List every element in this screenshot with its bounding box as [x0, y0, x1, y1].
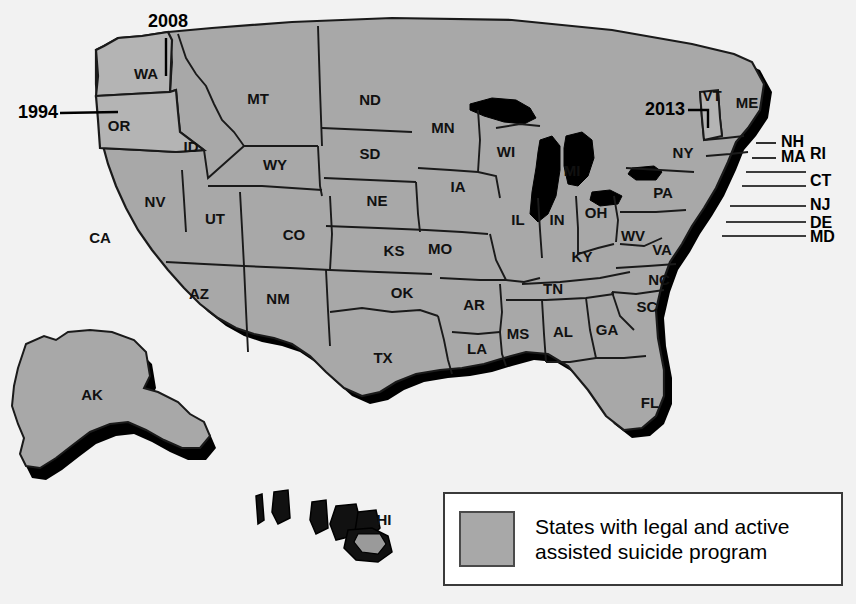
legend-line-2: assisted suicide program [535, 539, 789, 564]
state-label-ny: NY [673, 144, 694, 161]
state-label-me: ME [736, 94, 759, 111]
state-label-pa: PA [653, 184, 673, 201]
state-label-mi: MI [564, 162, 581, 179]
callout-or-1994: 1994 [18, 102, 58, 122]
state-label-wv: WV [621, 227, 645, 244]
hawaii-group [256, 490, 392, 562]
state-label-id: ID [184, 138, 199, 155]
state-label-hi: HI [377, 511, 392, 528]
state-label-fl: FL [641, 394, 659, 411]
state-label-mn: MN [431, 119, 454, 136]
legend-line-1: States with legal and active [535, 514, 789, 539]
hawaii-island-2 [272, 490, 290, 524]
legend-color-swatch [459, 511, 515, 567]
state-label-az: AZ [189, 285, 209, 302]
state-label-sd: SD [360, 145, 381, 162]
state-label-oh: OH [585, 204, 608, 221]
state-label-tn: TN [543, 280, 563, 297]
state-label-tx: TX [373, 349, 392, 366]
hawaii-island-3 [310, 500, 328, 534]
legend-description: States with legal and active assisted su… [535, 514, 789, 564]
state-label-ar: AR [463, 296, 485, 313]
state-label-mt: MT [247, 90, 269, 107]
state-label-ne: NE [367, 192, 388, 209]
state-label-ak: AK [81, 386, 103, 403]
state-label-wy: WY [263, 156, 287, 173]
state-label-la: LA [467, 340, 487, 357]
state-label-sc: SC [637, 298, 658, 315]
callout-wa-2008: 2008 [148, 11, 188, 31]
alaska-group [12, 330, 216, 480]
state-label-mo: MO [428, 240, 452, 257]
state-label-al: AL [553, 323, 573, 340]
state-label-ok: OK [391, 284, 414, 301]
state-label-in: IN [550, 211, 565, 228]
state-label-va: VA [652, 241, 672, 258]
state-label-ga: GA [596, 321, 619, 338]
state-label-ca: CA [89, 229, 111, 246]
hawaii-island-1 [256, 494, 264, 524]
map-legend: States with legal and active assisted su… [443, 492, 843, 586]
state-label-ut: UT [205, 210, 225, 227]
state-label-co: CO [283, 226, 306, 243]
edge-label-ct: CT [810, 172, 832, 189]
state-label-nd: ND [359, 91, 381, 108]
map-figure: WAORIDMTNDSDMNWIMINYVTMEWYNEIAILINOHPANV… [0, 0, 856, 604]
state-label-nc: NC [648, 271, 670, 288]
state-label-il: IL [511, 211, 524, 228]
edge-label-ma: MA [781, 148, 806, 165]
state-label-wi: WI [497, 143, 515, 160]
state-label-or: OR [108, 117, 131, 134]
state-label-vt: VT [702, 87, 721, 104]
contiguous-us-base [96, 18, 764, 430]
state-label-nm: NM [266, 290, 289, 307]
alaska-shape [12, 330, 210, 468]
state-label-ky: KY [572, 248, 593, 265]
callout-vt-2013: 2013 [645, 99, 685, 119]
leader-1994 [60, 112, 118, 113]
state-label-nv: NV [145, 193, 166, 210]
state-label-ia: IA [451, 178, 466, 195]
state-label-wa: WA [134, 65, 158, 82]
state-label-ms: MS [507, 325, 530, 342]
state-label-ks: KS [384, 242, 405, 259]
edge-state-labels: NHMARICTNJDEMD [781, 133, 835, 245]
edge-label-nj: NJ [810, 196, 830, 213]
edge-label-ri: RI [810, 145, 826, 162]
edge-label-md: MD [810, 228, 835, 245]
